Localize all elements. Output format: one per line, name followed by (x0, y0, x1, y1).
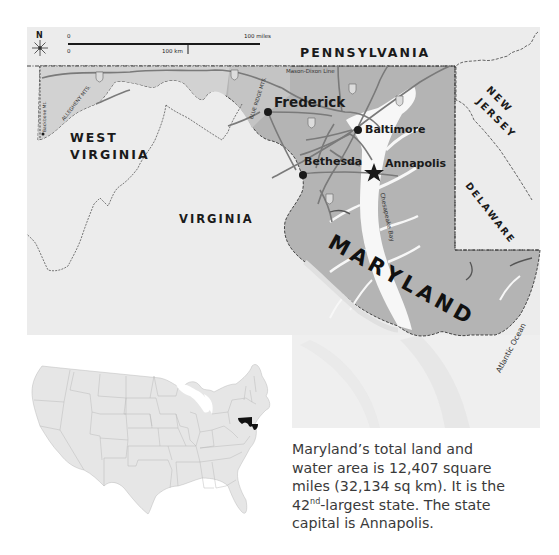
city-label-annapolis: Annapolis (385, 157, 446, 170)
scale-miles-label: 100 miles (244, 33, 271, 39)
compass-north-label: N (36, 31, 43, 40)
state-label-pennsylvania: PENNSYLVANIA (300, 45, 430, 60)
scale-km-label: 100 km (162, 48, 183, 54)
state-label-west-virginia-1: WEST (70, 130, 118, 145)
caption-line-5: capital is Annapolis. (292, 514, 542, 533)
backbone-mt-marker-icon (42, 133, 45, 136)
city-label-frederick: Frederick (274, 94, 345, 110)
scale-miles-zero: 0 (67, 33, 71, 39)
state-label-west-virginia-2: VIRGINIA (70, 147, 150, 162)
caption-line-2: water area is 12,407 square (292, 459, 542, 478)
city-label-bethesda: Bethesda (304, 155, 362, 168)
caption-line-4: 42nd-largest state. The state (292, 496, 542, 515)
scale-km-zero: 0 (67, 48, 71, 54)
us-inset-map (32, 364, 270, 514)
caption-line-3: miles (32,134 sq km). It is the (292, 477, 542, 496)
mason-dixon-label: Mason-Dixon Line (286, 68, 335, 74)
backbone-mt-label: Backbone Mt. (42, 101, 47, 132)
bethesda-marker-icon (299, 171, 307, 179)
frederick-marker-icon (264, 108, 272, 116)
caption-line-1: Maryland’s total land and (292, 440, 542, 459)
city-label-baltimore: Baltimore (365, 123, 426, 136)
map-caption: Maryland’s total land and water area is … (292, 440, 542, 533)
baltimore-marker-icon (354, 126, 362, 134)
state-label-virginia: VIRGINIA (179, 212, 254, 226)
